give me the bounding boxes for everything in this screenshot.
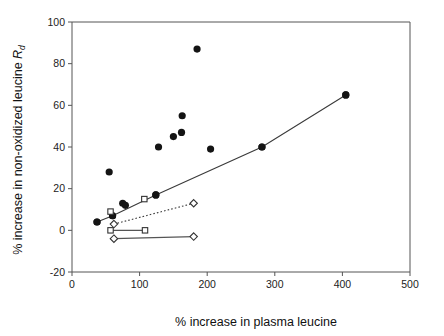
data-point-filled-circle — [106, 168, 113, 175]
series-line-filled-circles-connected — [97, 95, 346, 222]
y-tick-label: 20 — [53, 182, 65, 194]
svg-text:% increase in non-oxidized leu: % increase in non-oxidized leucine Rd — [11, 45, 27, 255]
y-tick-label: 60 — [53, 99, 65, 111]
x-tick-label: 0 — [69, 278, 75, 290]
y-axis-title-group: % increase in non-oxidized leucine Rd — [11, 45, 27, 255]
x-tick-label: 300 — [266, 278, 284, 290]
y-tick-label: -20 — [50, 266, 65, 278]
data-point-filled-circle — [122, 202, 129, 209]
x-tick-label: 500 — [401, 278, 419, 290]
data-point-open-square — [142, 228, 147, 233]
y-tick-label: 100 — [47, 16, 65, 28]
data-point-open-diamond — [110, 235, 117, 242]
data-point-open-square — [108, 228, 113, 233]
data-point-filled-circle — [207, 145, 214, 152]
y-tick-label: 40 — [53, 141, 65, 153]
x-tick-label: 400 — [334, 278, 352, 290]
data-point-filled-circle — [179, 112, 186, 119]
data-point-filled-circle — [155, 143, 162, 150]
data-point-filled-circle — [342, 91, 349, 98]
data-point-filled-circle — [93, 218, 100, 225]
data-point-open-square — [108, 209, 113, 214]
scatter-plot: -200204060801000100200300400500 % increa… — [0, 0, 444, 336]
data-point-filled-circle — [152, 191, 159, 198]
y-axis-symbol-subscript: d — [17, 45, 27, 50]
data-series — [93, 45, 349, 242]
y-axis-title: % increase in non-oxidized leucine — [11, 62, 25, 255]
data-point-open-diamond — [190, 200, 197, 207]
data-point-filled-circle — [193, 45, 200, 52]
data-point-open-diamond — [110, 220, 117, 227]
plot-axes — [72, 22, 410, 272]
data-point-open-diamond — [190, 233, 197, 240]
axis-ticks — [68, 22, 410, 276]
series-line-open-diamonds-flat — [114, 237, 194, 239]
x-axis-title: % increase in plasma leucine — [175, 315, 337, 329]
y-tick-label: 0 — [59, 224, 65, 236]
axis-tick-labels: -200204060801000100200300400500 — [47, 16, 418, 290]
data-point-filled-circle — [258, 143, 265, 150]
chart-figure: -200204060801000100200300400500 % increa… — [0, 0, 444, 336]
data-point-open-square — [142, 196, 147, 201]
data-point-filled-circle — [170, 133, 177, 140]
y-tick-label: 80 — [53, 57, 65, 69]
data-point-filled-circle — [178, 129, 185, 136]
x-tick-label: 100 — [131, 278, 149, 290]
y-axis-symbol: R — [11, 50, 25, 59]
x-tick-label: 200 — [198, 278, 216, 290]
